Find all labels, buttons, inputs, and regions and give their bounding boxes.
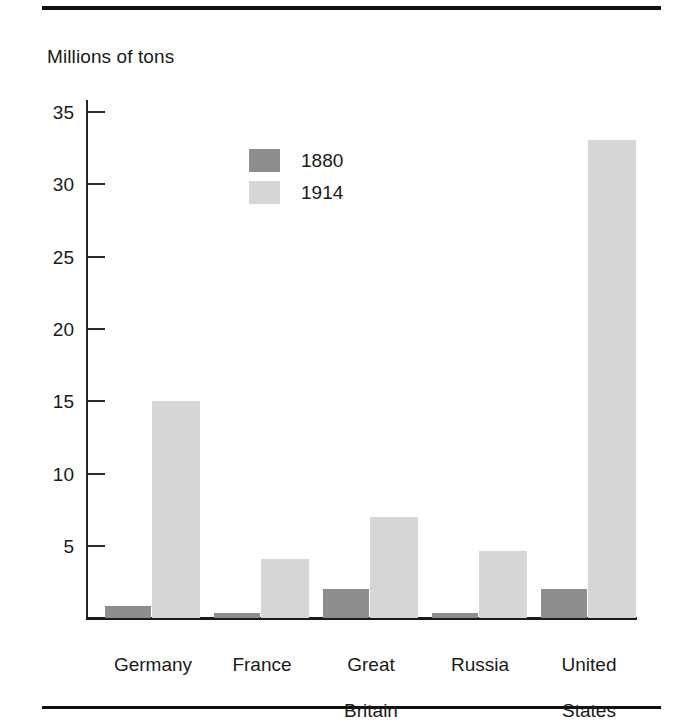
x-label-france-line1: France [232, 654, 291, 675]
x-label-united-states-line2: States [562, 700, 616, 721]
x-label-united-states-line1: United [562, 654, 617, 675]
legend: 1880 1914 [249, 144, 343, 208]
bar-1914-germany [152, 401, 200, 618]
y-tick-label-15: 15 [28, 392, 74, 411]
chart-page: Millions of tons 35 30 25 20 15 10 5 [0, 0, 681, 726]
bar-1914-great-britain [370, 517, 418, 618]
bar-1880-russia [432, 613, 478, 618]
y-tick-label-5: 5 [28, 537, 74, 556]
bar-1914-russia [479, 551, 527, 618]
y-tick-label-35: 35 [28, 103, 74, 122]
bar-1880-united-states [541, 589, 587, 618]
x-label-germany: Germany [92, 630, 214, 676]
legend-item-1880: 1880 [249, 144, 343, 176]
y-tick-label-30: 30 [28, 175, 74, 194]
x-label-united-states: United States [528, 630, 650, 722]
x-label-great-britain-line2: Britain [344, 700, 398, 721]
legend-swatch-1914-icon [249, 181, 280, 204]
y-tick-label-10: 10 [28, 465, 74, 484]
bar-1914-france [261, 559, 309, 618]
y-tick-30 [88, 183, 105, 185]
bar-1880-great-britain [323, 589, 369, 618]
y-tick-15 [88, 400, 105, 402]
legend-label-1914: 1914 [301, 183, 343, 202]
bar-1880-france [214, 613, 260, 618]
x-label-great-britain: Great Britain [310, 630, 432, 722]
y-tick-label-20: 20 [28, 320, 74, 339]
y-tick-10 [88, 473, 105, 475]
x-label-russia: Russia [419, 630, 541, 676]
bar-1914-united-states [588, 140, 636, 618]
y-tick-20 [88, 328, 105, 330]
x-label-russia-line1: Russia [451, 654, 509, 675]
y-axis-line [86, 100, 88, 619]
x-label-germany-line1: Germany [114, 654, 192, 675]
legend-label-1880: 1880 [301, 151, 343, 170]
y-tick-35 [88, 111, 105, 113]
legend-item-1914: 1914 [249, 176, 343, 208]
plot-area: 35 30 25 20 15 10 5 Germany France [0, 0, 681, 726]
y-tick-25 [88, 256, 105, 258]
legend-swatch-1880-icon [249, 149, 280, 172]
x-label-france: France [201, 630, 323, 676]
y-tick-label-25: 25 [28, 248, 74, 267]
x-label-great-britain-line1: Great [347, 654, 395, 675]
y-tick-5 [88, 545, 105, 547]
bar-1880-germany [105, 606, 151, 618]
